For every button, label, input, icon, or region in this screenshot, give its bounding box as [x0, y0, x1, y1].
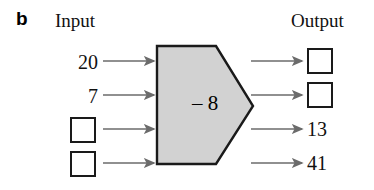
arrow-layer [0, 0, 374, 190]
function-machine-figure: b Input Output 20 7 13 41 – 8 [0, 0, 374, 190]
